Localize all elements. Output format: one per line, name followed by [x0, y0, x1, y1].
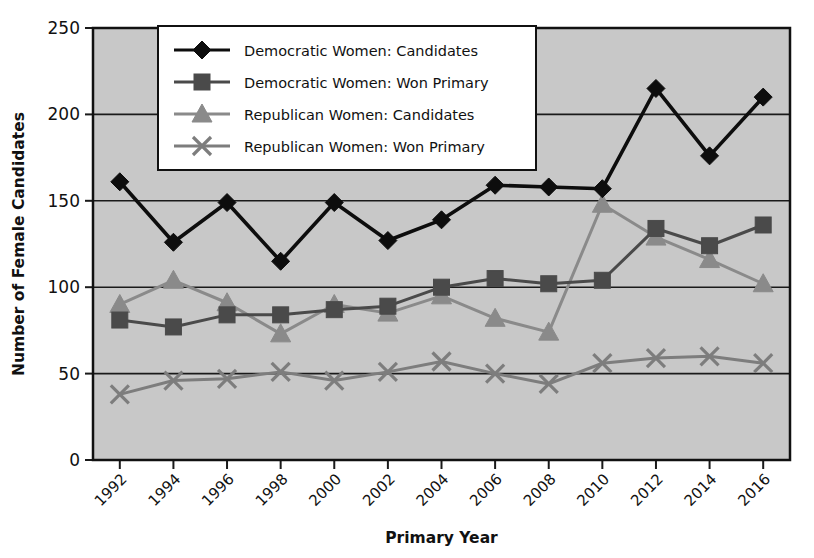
y-tick-label: 200	[48, 104, 80, 124]
marker-square	[380, 298, 396, 314]
legend-label: Democratic Women: Candidates	[244, 43, 478, 59]
female-candidates-line-chart: 050100150200250 199219941996199820002002…	[0, 0, 814, 558]
y-tick-label: 100	[48, 277, 80, 297]
marker-square	[648, 220, 664, 236]
marker-square	[219, 307, 235, 323]
y-axis-title: Number of Female Candidates	[10, 112, 28, 376]
marker-square	[755, 217, 771, 233]
marker-square	[594, 272, 610, 288]
y-tick-label: 250	[48, 18, 80, 38]
legend-label: Democratic Women: Won Primary	[244, 75, 489, 91]
marker-square	[112, 312, 128, 328]
marker-square	[487, 271, 503, 287]
marker-square	[165, 319, 181, 335]
chart-container: 050100150200250 199219941996199820002002…	[0, 0, 814, 558]
y-tick-label: 150	[48, 191, 80, 211]
marker-square	[194, 74, 210, 90]
marker-square	[434, 279, 450, 295]
y-tick-label: 0	[69, 450, 80, 470]
x-axis-title: Primary Year	[385, 529, 498, 547]
chart-legend[interactable]: Democratic Women: CandidatesDemocratic W…	[158, 26, 536, 170]
marker-square	[273, 307, 289, 323]
marker-square	[702, 238, 718, 254]
marker-square	[326, 302, 342, 318]
marker-square	[541, 276, 557, 292]
legend-label: Republican Women: Candidates	[244, 107, 474, 123]
legend-label: Republican Women: Won Primary	[244, 139, 485, 155]
y-tick-label: 50	[58, 364, 80, 384]
